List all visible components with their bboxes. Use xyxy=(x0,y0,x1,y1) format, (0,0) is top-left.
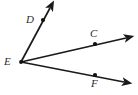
ray-ec-line xyxy=(21,38,126,62)
point-dot-d xyxy=(41,18,45,22)
angle-figure-svg xyxy=(0,0,138,95)
point-label-d: D xyxy=(26,14,34,25)
point-label-e: E xyxy=(4,56,11,67)
point-dot-c xyxy=(93,42,97,46)
ray-ef-line xyxy=(21,62,124,82)
point-label-f: F xyxy=(91,78,98,89)
geometry-diagram: E D C F xyxy=(0,0,138,95)
vertex-dot-e xyxy=(19,60,23,64)
point-label-c: C xyxy=(90,28,97,39)
